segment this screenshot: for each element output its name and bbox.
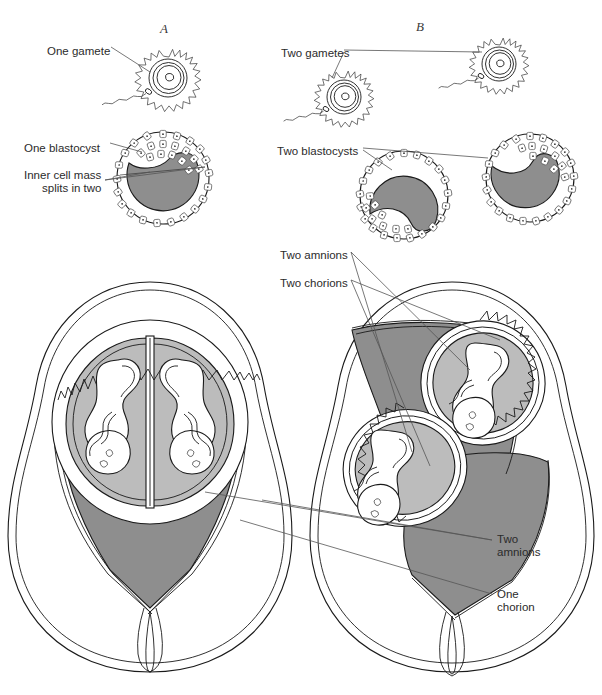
label-inner-cell-mass-2: splits in two [42, 182, 101, 196]
panel-b-blastocyst-left [356, 149, 452, 242]
panel-b-ovum-right [439, 38, 529, 94]
label-one-chorion-2: chorion [497, 601, 535, 615]
label-one-gamete: One gamete [47, 45, 110, 59]
label-two-blastocysts: Two blastocysts [277, 145, 358, 159]
panel-letter-a: A [159, 21, 168, 36]
panel-letter-b: B [416, 19, 424, 34]
uterus-dizygotic [310, 282, 594, 676]
label-two-amnions-upper: Two amnions [280, 249, 348, 263]
label-two-chorions: Two chorions [280, 277, 348, 291]
label-one-chorion-1: One [497, 588, 519, 602]
label-inner-cell-mass-1: Inner cell mass [24, 169, 101, 183]
panel-a-blastocyst [113, 130, 213, 226]
label-two-amnions-lower-2: amnions [497, 546, 540, 560]
panel-b-blastocyst-right [482, 132, 578, 225]
label-two-amnions-lower-1: Two [497, 533, 518, 547]
panel-a-ovum [102, 49, 201, 111]
panel-b-ovum-left [284, 71, 374, 127]
label-two-gametes: Two gametes [281, 47, 349, 61]
uterus-monozygotic [8, 282, 292, 672]
label-one-blastocyst: One blastocyst [24, 142, 100, 156]
